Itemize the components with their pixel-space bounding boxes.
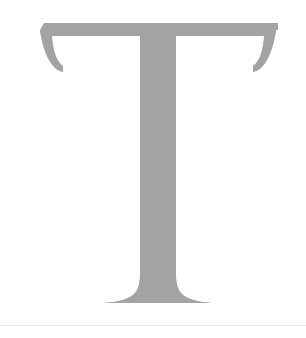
- letter-t-left-serif: [40, 23, 66, 72]
- glyph-stage: T: [0, 0, 306, 338]
- footer-hairline-rule: [0, 325, 306, 326]
- page-root: T: [0, 0, 306, 338]
- letter-t-right-serif: [253, 23, 278, 72]
- letter-t-glyph: T: [0, 0, 306, 338]
- letter-t-foot: [104, 258, 212, 303]
